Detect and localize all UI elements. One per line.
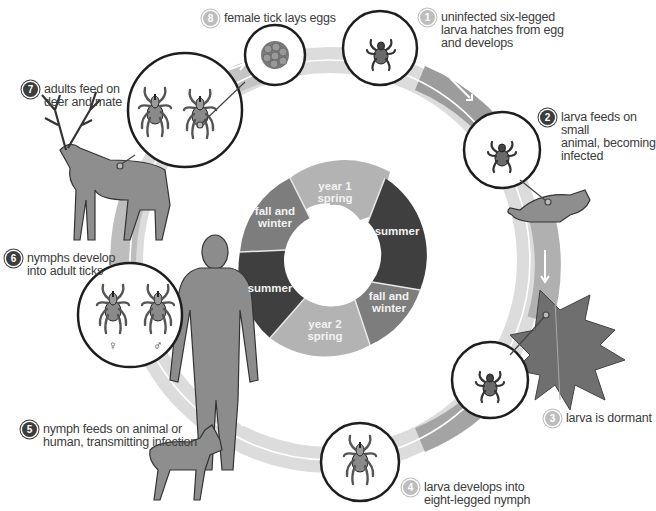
step-8-label: 8 female tick lays eggs [203,12,336,25]
season-summer-2: summer [245,282,295,294]
step-5-label: 5 nymph feeds on animal or human, transm… [22,423,197,449]
season-fall-winter-1: fall andwinter [364,290,414,314]
season-year1-spring: year 1spring [310,180,360,204]
nymph-circle [321,423,399,501]
season-fall-winter-2: fall andwinter [250,205,300,229]
step-7-label: 7 adults feed on deer and mate [23,83,122,109]
step-2-badge: 2 [540,110,555,125]
step-2-label: 2 larva feeds on small animal, becoming … [540,111,656,163]
step-1-label: 1 uninfected six-legged larva hatches fr… [420,11,564,50]
eggs-illustration [245,25,305,85]
season-year2-spring: year 2spring [300,318,350,342]
larva-circle [343,11,417,85]
step-4-label: 4 larva develops into eight-legged nymph [403,481,530,507]
tick-life-cycle-diagram: year 1spring summer fall andwinter year … [0,0,656,511]
season-summer-1: summer [372,225,422,237]
step-5-badge: 5 [22,422,37,437]
step-7-badge: 7 [23,82,38,97]
step-3-label: 3 larva is dormant [545,412,652,425]
female-symbol: ♀ [108,338,118,353]
step-6-badge: 6 [6,251,21,266]
adult-ticks-circle [78,263,182,367]
step-3-badge: 3 [545,411,560,426]
feeding-larva-circle [464,112,540,188]
step-1-badge: 1 [420,10,435,25]
step-8-badge: 8 [203,11,218,26]
step-4-badge: 4 [403,480,418,495]
mating-adults-circle [128,53,242,167]
male-symbol: ♂ [153,338,163,353]
dormant-larva-circle [452,342,528,418]
step-6-label: 6 nymphs develop into adult ticks [6,252,115,278]
